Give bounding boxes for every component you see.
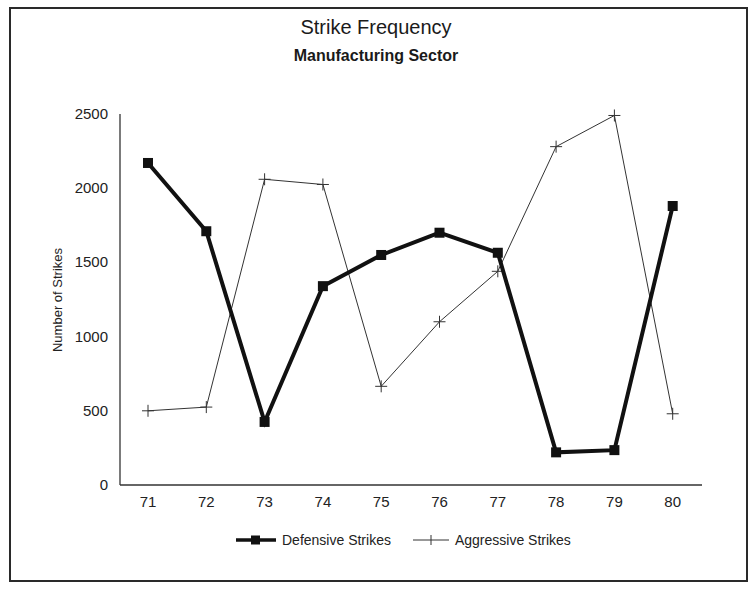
square-marker-icon — [668, 201, 678, 211]
square-marker-icon — [435, 228, 445, 238]
plus-marker-icon — [142, 405, 154, 417]
x-tick-label: 71 — [140, 493, 157, 510]
legend-label-aggressive: Aggressive Strikes — [455, 532, 571, 548]
x-tick-label: 74 — [315, 493, 332, 510]
plus-marker-icon — [608, 109, 620, 121]
plus-marker-icon — [667, 408, 679, 420]
x-tick-label: 72 — [198, 493, 215, 510]
legend-label-defensive: Defensive Strikes — [282, 532, 391, 548]
plus-marker-icon — [200, 401, 212, 413]
y-tick-label: 500 — [83, 402, 108, 419]
square-marker-icon — [143, 158, 153, 168]
square-marker-icon — [318, 281, 328, 291]
x-tick-label: 79 — [606, 493, 623, 510]
plot-area: Number of Strikes 05001000150020002500 7… — [0, 0, 752, 591]
y-tick-label: 2000 — [75, 179, 108, 196]
series-line — [148, 163, 673, 452]
legend-item-aggressive: Aggressive Strikes — [413, 532, 571, 548]
x-tick-label: 80 — [664, 493, 681, 510]
x-tick-label: 76 — [431, 493, 448, 510]
y-tick-label: 1000 — [75, 328, 108, 345]
square-marker-icon — [376, 250, 386, 260]
plus-marker-icon — [550, 141, 562, 153]
y-axis-label: Number of Strikes — [50, 247, 65, 352]
plus-marker-icon — [413, 534, 449, 546]
y-tick-label: 0 — [100, 476, 108, 493]
square-marker-icon — [260, 417, 270, 427]
plus-marker-icon — [317, 178, 329, 190]
x-tick-label: 73 — [256, 493, 273, 510]
x-tick-labels: 71727374757677787980 — [140, 493, 681, 510]
legend-item-defensive: Defensive Strikes — [236, 532, 391, 548]
square-marker-icon — [201, 226, 211, 236]
square-marker-icon — [493, 248, 503, 258]
y-tick-labels: 05001000150020002500 — [75, 105, 108, 493]
y-tick-label: 1500 — [75, 253, 108, 270]
y-tick-label: 2500 — [75, 105, 108, 122]
series-line — [148, 115, 673, 413]
plus-marker-icon — [259, 173, 271, 185]
square-marker-icon — [551, 447, 561, 457]
x-tick-label: 75 — [373, 493, 390, 510]
square-marker-icon — [236, 534, 276, 546]
square-marker-icon — [609, 445, 619, 455]
x-tick-label: 78 — [548, 493, 565, 510]
series-defensive-strikes — [143, 158, 678, 457]
x-tick-label: 77 — [489, 493, 506, 510]
chart-legend: Defensive Strikes Aggressive Strikes — [236, 532, 593, 548]
series-aggressive-strikes — [142, 109, 679, 419]
